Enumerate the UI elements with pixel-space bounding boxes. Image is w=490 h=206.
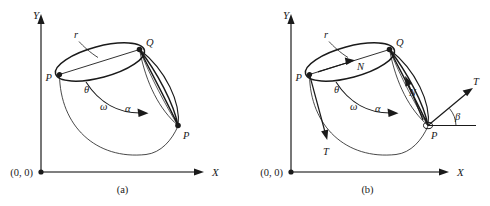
panel-a-caption: (a) xyxy=(0,184,245,195)
y-axis xyxy=(37,14,44,172)
tension-vector-left xyxy=(310,75,329,141)
point-p-start-label: P xyxy=(45,72,53,83)
tension-right-label: T xyxy=(473,76,480,87)
beta-label: β xyxy=(454,111,461,122)
rotation-arrow xyxy=(86,82,149,117)
theta-label: θ xyxy=(84,84,89,95)
point-q-dot xyxy=(137,47,143,53)
x-axis xyxy=(291,168,449,175)
swept-region xyxy=(310,50,429,156)
origin-label: (0, 0) xyxy=(260,167,283,179)
x-axis-label: X xyxy=(456,166,465,178)
figure-panel-b: Y X (0, 0) r P Q P θ ω α β N N T T (b) xyxy=(245,0,490,206)
point-p-start-label: P xyxy=(295,72,303,83)
x-axis xyxy=(41,168,204,175)
point-p-start-dot xyxy=(57,72,62,77)
point-p-end-label: P xyxy=(182,130,190,141)
origin-dot xyxy=(288,169,293,174)
point-q-dot xyxy=(387,47,393,53)
x-axis-label: X xyxy=(211,166,220,178)
alpha-label: α xyxy=(125,103,131,114)
beta-reference-line xyxy=(428,109,476,126)
radius-label: r xyxy=(324,29,329,40)
point-p-end-label: P xyxy=(430,130,438,141)
normal-vector-top xyxy=(318,58,355,72)
figure-panel-a: Y X (0, 0) r P Q P θ ω α (a) xyxy=(0,0,245,206)
normal-top-label: N xyxy=(356,61,365,72)
rotation-arrow xyxy=(336,82,399,117)
tension-left-label: T xyxy=(323,146,330,157)
omega-label: ω xyxy=(100,101,107,112)
panel-a-drawing: Y X (0, 0) r P Q P θ ω α xyxy=(0,0,245,206)
point-p-end-dot xyxy=(175,123,181,129)
radius-label: r xyxy=(74,29,79,40)
point-p-start-dot xyxy=(307,72,312,77)
figure-container: Y X (0, 0) r P Q P θ ω α (a) xyxy=(0,0,490,206)
disc-ellipse-start xyxy=(52,35,149,89)
origin-dot xyxy=(38,169,43,174)
theta-label: θ xyxy=(334,84,339,95)
panel-b-drawing: Y X (0, 0) r P Q P θ ω α β N N T T xyxy=(245,0,490,206)
normal-side-label: N xyxy=(408,87,417,98)
omega-label: ω xyxy=(350,101,357,112)
swept-region xyxy=(60,50,179,156)
alpha-label: α xyxy=(375,103,381,114)
normal-vector-side xyxy=(405,76,423,120)
origin-label: (0, 0) xyxy=(10,167,33,179)
point-q-label: Q xyxy=(396,37,404,48)
panel-b-caption: (b) xyxy=(245,184,490,195)
tension-vector-right xyxy=(428,88,473,126)
point-q-label: Q xyxy=(146,37,154,48)
y-axis xyxy=(287,14,294,172)
